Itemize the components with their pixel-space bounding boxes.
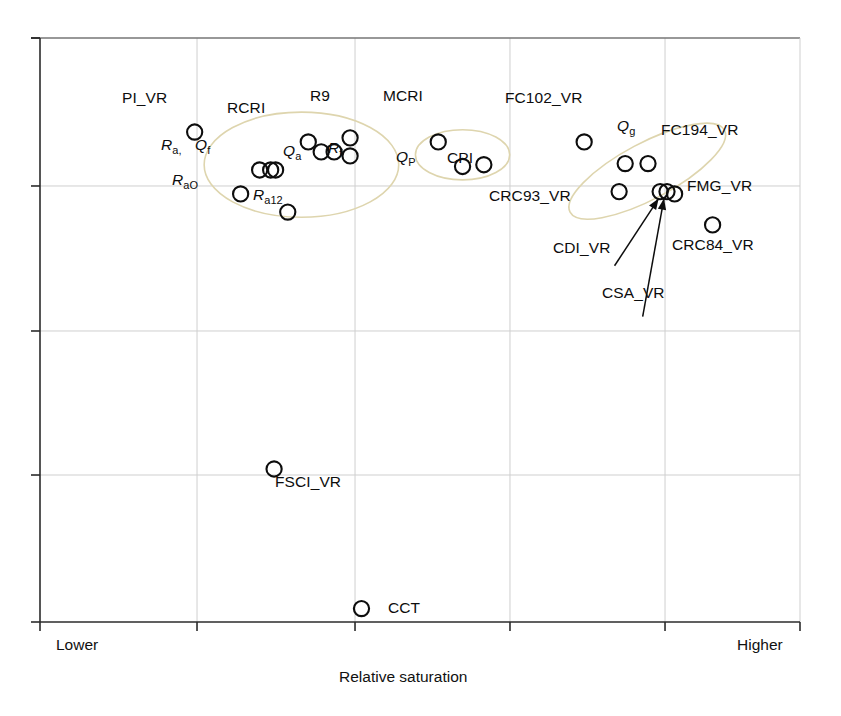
point-label-fc194-vr: FC194_VR — [661, 122, 738, 138]
rf-base: R — [328, 139, 339, 156]
ra-comma-base: R — [161, 136, 172, 153]
data-point — [618, 156, 633, 171]
qg-sub: g — [629, 125, 635, 137]
data-point — [301, 134, 316, 149]
point-label-cdi-vr: CDI_VR — [553, 240, 610, 256]
qf-base: Q — [195, 136, 207, 153]
annotation-arrow-cdi-vr — [615, 199, 659, 266]
ra12-base: R — [253, 186, 264, 203]
data-point — [476, 157, 491, 172]
cluster-ellipse-left-cluster — [204, 112, 399, 217]
axis-label-higher: Higher — [737, 636, 783, 654]
point-label-crc93-vr: CRC93_VR — [489, 188, 571, 204]
data-point — [354, 601, 369, 616]
point-label-qp: QP — [396, 149, 416, 168]
data-point — [705, 217, 720, 232]
rf-sub: f — [339, 147, 342, 159]
qg-base: Q — [617, 117, 629, 134]
point-label-fc102-vr: FC102_VR — [505, 90, 582, 106]
qa-sub: a — [295, 150, 301, 162]
ra-comma-sub: a, — [172, 144, 181, 156]
rao-base: R — [172, 171, 183, 188]
point-label-crc84-vr: CRC84_VR — [672, 237, 754, 253]
point-label-csa-vr: CSA_VR — [602, 285, 665, 301]
point-label-fsci-vr: FSCI_VR — [275, 474, 341, 490]
point-label-cpi: CPI — [447, 150, 473, 166]
point-label-pi-vr: PI_VR — [122, 90, 167, 106]
point-label-r9: R9 — [310, 88, 330, 104]
point-label-qg: Qg — [617, 118, 635, 137]
axis-label-lower: Lower — [56, 636, 98, 654]
point-label-qa: Qa — [283, 143, 301, 162]
rao-sub: aO — [183, 179, 198, 191]
ra12-sub: a12 — [264, 194, 282, 206]
qp-sub: P — [408, 156, 415, 168]
point-label-ra-comma: Ra, — [161, 137, 181, 156]
scatter-plot-svg — [0, 0, 841, 716]
qa-base: Q — [283, 142, 295, 159]
data-point — [431, 134, 446, 149]
point-label-rcri: RCRI — [227, 100, 265, 116]
data-point — [640, 156, 655, 171]
data-point — [577, 134, 592, 149]
qf-sub: f — [207, 144, 210, 156]
point-label-rao: RaO — [172, 172, 198, 191]
point-label-mcri: MCRI — [383, 88, 423, 104]
chart-canvas: PI_VR RCRI R9 Ra, Qf Qa Rf RaO Ra12 MCRI… — [0, 0, 841, 716]
qp-base: Q — [396, 148, 408, 165]
data-point — [233, 186, 248, 201]
point-label-cct: CCT — [388, 600, 420, 616]
point-label-fmg-vr: FMG_VR — [687, 178, 752, 194]
point-label-rf: Rf — [328, 140, 342, 159]
point-label-ra12: Ra12 — [253, 187, 283, 206]
point-label-qf: Qf — [195, 137, 210, 156]
x-axis-title: Relative saturation — [339, 668, 467, 686]
